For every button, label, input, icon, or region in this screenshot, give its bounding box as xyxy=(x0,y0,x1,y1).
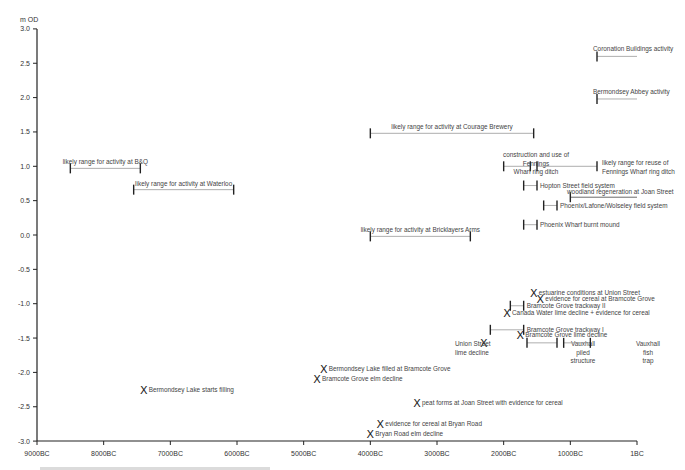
x-tick-label: 5000BC xyxy=(291,450,316,457)
range-bar: Phoenix/Lafone/Wolseley field system xyxy=(544,200,668,210)
range-label: trap xyxy=(642,357,653,365)
x-tick-label: 6000BC xyxy=(224,450,249,457)
y-tick-label: 1.5 xyxy=(20,128,30,135)
y-tick-label: 0.5 xyxy=(20,197,30,204)
range-bar: construction and use ofFenningsWharf rin… xyxy=(503,151,569,176)
event-label: Bermondsey Lake starts filling xyxy=(149,386,235,394)
range-bar: woodland regeneration at Joan Street xyxy=(566,188,674,202)
range-bar: Bermondsey Abbey activity xyxy=(593,88,671,104)
range-label: likely range for activity at Bricklayers… xyxy=(361,226,480,234)
y-axis-unit-label: m OD xyxy=(20,16,38,23)
range-bar: likely range for activity at Waterloo xyxy=(134,180,234,195)
x-tick-label: 3000BC xyxy=(424,450,449,457)
range-label: Wharf ring ditch xyxy=(514,168,559,176)
range-label: likely range for activity at Courage Bre… xyxy=(391,123,513,131)
range-label: Vauxhall xyxy=(636,340,660,347)
x-tick-label: 2000BC xyxy=(491,450,516,457)
y-tick-label: 2.5 xyxy=(20,60,30,67)
x-marker-icon: X xyxy=(320,363,328,376)
y-axis-ticks: 3.02.52.01.51.00.50.0-0.5-1.0-1.5-2.0-2.… xyxy=(18,25,37,444)
x-marker-icon: X xyxy=(313,373,321,386)
range-label: Fennings Wharf ring ditch xyxy=(602,168,675,176)
event-label: Bryan Road elm decline xyxy=(375,430,443,438)
x-tick-label: 1000BC xyxy=(558,450,583,457)
range-label: likely range for activity at B&Q xyxy=(63,158,148,166)
range-label: woodland regeneration at Joan Street xyxy=(566,188,674,196)
range-label: Vauxhall xyxy=(571,340,595,347)
y-tick-label: -2.5 xyxy=(18,403,30,410)
y-tick-label: 2.0 xyxy=(20,94,30,101)
event-label: Union Street xyxy=(455,340,491,347)
event-marker: XBermondsey Lake starts filling xyxy=(140,384,234,397)
range-label: likely range for reuse of xyxy=(602,159,669,167)
range-bar: Phoenix Wharf burnt mound xyxy=(524,220,620,230)
y-tick-label: 0.0 xyxy=(20,232,30,239)
x-tick-label: 1BC xyxy=(630,450,644,457)
x-marker-icon: X xyxy=(367,428,375,441)
event-marker: XBryan Road elm decline xyxy=(367,428,444,441)
y-tick-label: -0.5 xyxy=(18,266,30,273)
event-label: lime decline xyxy=(455,349,489,356)
range-label: fish xyxy=(643,349,653,356)
x-marker-icon: X xyxy=(503,307,511,320)
x-tick-label: 4000BC xyxy=(358,450,383,457)
range-label: structure xyxy=(571,357,596,364)
event-marker: XUnion Streetlime decline xyxy=(455,337,491,356)
x-tick-label: 8000BC xyxy=(91,450,116,457)
event-label: evidence for cereal at Bramcote Grove xyxy=(545,295,655,302)
x-marker-icon: X xyxy=(517,329,525,342)
chart-area: m OD 3.02.52.01.51.00.50.0-0.5-1.0-1.5-2… xyxy=(0,0,685,470)
event-label: Bermondsey Lake filled at Bramcote Grove xyxy=(329,365,451,373)
range-bar: likely range for activity at Bricklayers… xyxy=(361,226,480,241)
y-tick-label: 1.0 xyxy=(20,163,30,170)
event-label: evidence for cereal at Bryan Road xyxy=(385,420,482,428)
range-label: piled xyxy=(576,349,590,357)
event-marker: XBermondsey Lake filled at Bramcote Grov… xyxy=(320,363,451,376)
x-tick-label: 7000BC xyxy=(158,450,183,457)
x-marker-icon: X xyxy=(537,293,545,306)
y-tick-label: -1.0 xyxy=(18,300,30,307)
event-label: Canada Water lime decline + evidence for… xyxy=(512,309,650,316)
range-label: Bermondsey Abbey activity xyxy=(593,88,671,96)
range-bar: likely range for activity at Courage Bre… xyxy=(370,123,533,138)
event-label: Bramcote Grove elm decline xyxy=(322,375,403,382)
range-label: construction and use of xyxy=(503,151,569,158)
range-label: likely range for activity at Waterloo xyxy=(135,180,233,188)
range-bar: Coronation Buildings activity xyxy=(593,45,674,61)
x-marker-icon: X xyxy=(140,384,148,397)
y-tick-label: -1.5 xyxy=(18,335,30,342)
event-marker: XBramcote Grove elm decline xyxy=(313,373,403,386)
event-markers: Xestuarine conditions at Union StreetXev… xyxy=(140,287,655,441)
range-bars: Coronation Buildings activityBermondsey … xyxy=(63,45,676,365)
y-tick-label: -3.0 xyxy=(18,438,30,445)
range-label: Phoenix/Lafone/Wolseley field system xyxy=(560,202,668,210)
x-marker-icon: X xyxy=(413,397,421,410)
event-label: Bramcote Grove lime decline xyxy=(525,331,607,338)
y-tick-label: 3.0 xyxy=(20,25,30,32)
event-marker: Xpeat forms at Joan Street with evidence… xyxy=(413,397,562,410)
range-bar: likely range for activity at B&Q xyxy=(63,158,148,173)
x-marker-icon: X xyxy=(377,418,385,431)
event-label: peat forms at Joan Street with evidence … xyxy=(422,399,563,407)
y-tick-label: -2.0 xyxy=(18,369,30,376)
x-tick-label: 9000BC xyxy=(24,450,49,457)
range-label: Coronation Buildings activity xyxy=(593,45,674,53)
x-axis-ticks: 9000BC8000BC7000BC6000BC5000BC4000BC3000… xyxy=(24,441,643,457)
event-marker: Xevidence for cereal at Bryan Road xyxy=(377,418,483,431)
range-bar: Vauxhallpiledstructure xyxy=(527,338,596,364)
event-marker: XCanada Water lime decline + evidence fo… xyxy=(503,307,650,320)
range-label: Phoenix Wharf burnt mound xyxy=(540,221,620,228)
